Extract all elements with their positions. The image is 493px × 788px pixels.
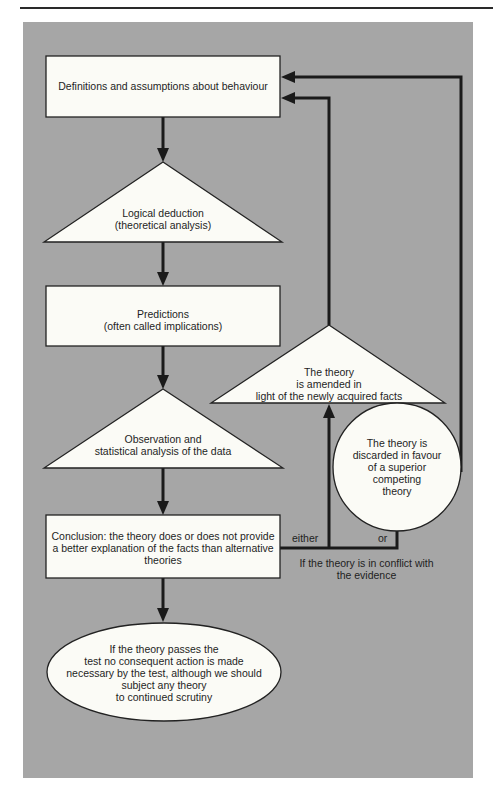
edge-amended-definitions (293, 98, 329, 325)
arrowhead-icon (323, 404, 335, 418)
node-conclusion-label: Conclusion: the theory does or does not … (46, 530, 280, 566)
conflict-label: If the theory is in conflict with the ev… (284, 557, 449, 581)
arrowhead-icon (157, 148, 169, 162)
node-passes-label: If the theory passes the test no consequ… (54, 643, 274, 703)
either-label: either (292, 532, 332, 544)
node-predictions-label: Predictions (often called implications) (46, 308, 280, 332)
node-amended-label: The theory is amended in light of the ne… (219, 366, 439, 402)
or-label: or (378, 532, 398, 544)
node-observation-label: Observation and statistical analysis of … (63, 433, 263, 457)
arrowhead-icon (157, 375, 169, 389)
node-deduction-label: Logical deduction (theoretical analysis) (63, 207, 263, 231)
arrowhead-icon (157, 608, 169, 622)
node-definitions-label: Definitions and assumptions about behavi… (46, 80, 280, 92)
arrowhead-icon (281, 71, 295, 83)
arrowhead-icon (281, 92, 295, 104)
node-discarded-label: The theory is discarded in favour of a s… (341, 437, 453, 497)
arrowhead-icon (157, 272, 169, 286)
arrowhead-icon (157, 501, 169, 515)
